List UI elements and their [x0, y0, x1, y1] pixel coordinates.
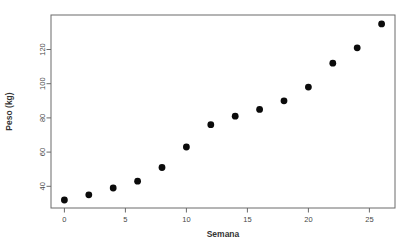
data-point — [378, 21, 385, 28]
data-point — [207, 121, 214, 128]
figure-canvas: 0510152025406080100120 Semana Peso (kg) — [0, 0, 412, 247]
x-tick-label: 15 — [243, 215, 251, 224]
x-tick-label: 25 — [365, 215, 373, 224]
y-tick-label: 40 — [38, 182, 47, 190]
data-point — [232, 113, 239, 120]
data-point — [281, 97, 288, 104]
x-tick-label: 0 — [62, 215, 66, 224]
data-point — [256, 106, 263, 113]
x-tick-label: 5 — [123, 215, 127, 224]
data-point — [110, 185, 117, 192]
x-tick-label: 20 — [304, 215, 312, 224]
y-tick-label: 120 — [38, 43, 47, 56]
data-point — [61, 197, 68, 204]
y-axis-title: Peso (kg) — [4, 92, 14, 130]
data-point — [305, 84, 312, 91]
x-tick-label: 10 — [182, 215, 190, 224]
plot-area: 0510152025406080100120 — [38, 15, 395, 224]
data-point — [159, 164, 166, 171]
data-point — [85, 191, 92, 198]
scatter-plot: 0510152025406080100120 Semana Peso (kg) — [0, 0, 412, 247]
data-point — [134, 178, 141, 185]
y-tick-label: 100 — [38, 77, 47, 90]
data-point — [329, 60, 336, 67]
y-tick-label: 80 — [38, 114, 47, 122]
data-point — [183, 144, 190, 151]
data-point — [354, 44, 361, 51]
x-axis-title: Semana — [207, 229, 240, 239]
y-tick-label: 60 — [38, 148, 47, 156]
plot-border — [51, 15, 395, 208]
